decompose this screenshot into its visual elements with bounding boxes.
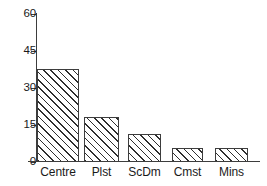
bar-scdm xyxy=(128,134,161,162)
x-label-cmst: Cmst xyxy=(163,165,212,179)
bar-plst xyxy=(84,117,119,162)
x-label-mins: Mins xyxy=(207,165,256,179)
bar-cmst xyxy=(172,148,203,162)
plot-area xyxy=(0,0,267,186)
x-label-plst: Plst xyxy=(79,165,124,179)
bar-mins xyxy=(215,148,248,162)
x-axis-line xyxy=(28,161,260,162)
bar-chart: 60 45 30 15 0 Centre Plst ScDm Cmst Mins xyxy=(0,0,267,186)
bar-centre xyxy=(37,69,79,162)
